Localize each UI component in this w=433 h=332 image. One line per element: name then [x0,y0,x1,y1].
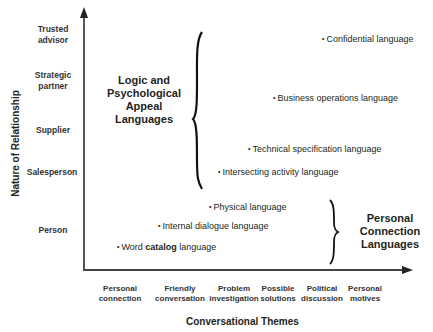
group-personal-connection: Personal Connection Languages [352,212,428,251]
item-intersecting-activity-language: •Intersecting activity language [218,167,339,177]
x-level-line: Personal [342,284,388,294]
x-level-line: conversation [150,294,210,304]
item-label-prefix: Word [121,242,145,252]
group-line: Languages [104,113,184,126]
y-axis-arrow-icon [80,7,88,18]
item-label-suffix: language [177,242,217,252]
item-technical-specification-language: •Technical specification language [248,144,382,154]
x-level-personal-connection: Personal connection [96,284,144,304]
y-level-line: Supplier [26,125,80,136]
bullet-icon: • [209,203,211,210]
x-level-line: solutions [256,294,300,304]
bullet-icon: • [158,222,160,229]
item-label: Confidential language [326,34,413,44]
y-level-line: Person [26,225,80,236]
x-level-friendly-conversation: Friendly conversation [150,284,210,304]
item-business-operations-language: •Business operations language [273,93,398,103]
item-label: Technical specification language [252,144,381,154]
x-level-line: investigation [204,294,264,304]
y-level-strategic-partner: Strategic partner [26,70,80,92]
y-level-line: partner [26,81,80,92]
diagram-graphics [0,0,433,332]
y-level-salesperson: Salesperson [22,167,82,178]
item-internal-dialogue-language: •Internal dialogue language [158,221,269,231]
y-level-line: Salesperson [22,167,82,178]
x-level-line: connection [96,294,144,304]
group-line: Psychological [104,87,184,100]
group-line: Connection [352,225,428,238]
bullet-icon: • [117,243,119,250]
y-level-line: Strategic [26,70,80,81]
x-level-political-discussion: Political discussion [297,284,347,304]
item-word-catalog-language: •Word catalog language [117,242,216,252]
y-level-person: Person [26,225,80,236]
bullet-icon: • [248,145,250,152]
y-level-line: Trusted [28,24,78,35]
item-label-bold: catalog [145,242,177,252]
bullet-icon: • [273,94,275,101]
y-level-line: advisor [28,35,78,46]
x-level-line: Friendly [150,284,210,294]
y-axis-title: Nature of Relationship [10,89,21,199]
x-level-line: discussion [297,294,347,304]
item-label: Internal dialogue language [162,221,268,231]
bullet-icon: • [218,168,220,175]
item-label: Physical language [213,202,286,212]
x-level-line: Political [297,284,347,294]
group-line: Personal [352,212,428,225]
y-level-trusted-advisor: Trusted advisor [28,24,78,46]
x-axis-title: Conversational Themes [186,316,299,327]
x-axis-arrow-icon [402,266,413,274]
item-label: Business operations language [277,93,398,103]
x-level-line: Problem [204,284,264,294]
x-level-possible-solutions: Possible solutions [256,284,300,304]
item-label: Intersecting activity language [222,167,338,177]
logic-brace-icon [193,32,202,189]
x-level-line: Possible [256,284,300,294]
x-level-line: Personal [96,284,144,294]
x-level-personal-motives: Personal motives [342,284,388,304]
y-level-supplier: Supplier [26,125,80,136]
bullet-icon: • [322,35,324,42]
personal-brace-icon [330,200,338,264]
group-line: Appeal [104,100,184,113]
group-line: Logic and [104,74,184,87]
group-line: Languages [352,238,428,251]
x-level-problem-investigation: Problem investigation [204,284,264,304]
item-confidential-language: •Confidential language [322,34,414,44]
item-physical-language: •Physical language [209,202,287,212]
x-level-line: motives [342,294,388,304]
group-logic-psychological: Logic and Psychological Appeal Languages [104,74,184,126]
